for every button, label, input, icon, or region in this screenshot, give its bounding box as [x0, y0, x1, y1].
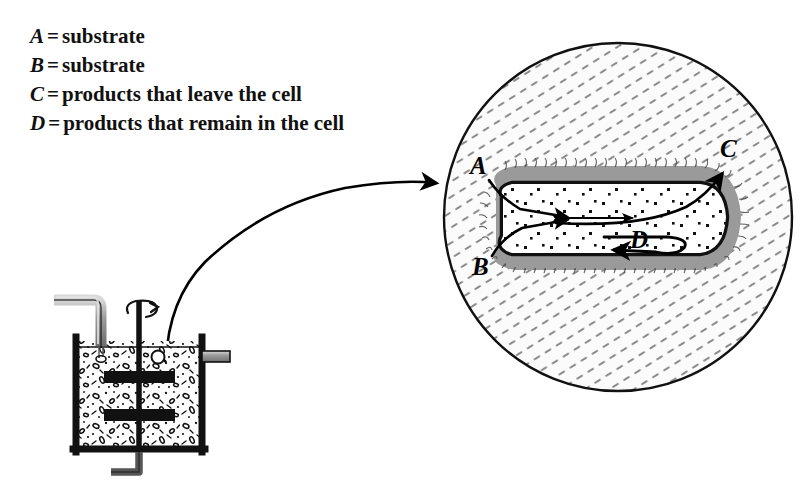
- cell-label-b: B: [471, 253, 489, 280]
- impeller-blade-upper: [104, 371, 175, 383]
- rotation-arrow: [127, 301, 158, 317]
- magnification-pointer-arrow: [166, 182, 436, 362]
- legend-symbol-a: A: [30, 24, 46, 48]
- drain-pipe: [111, 452, 139, 472]
- legend-symbol-d: D: [30, 111, 47, 135]
- legend-equals-c: =: [46, 82, 62, 106]
- stirred-tank-bioreactor: [54, 297, 230, 472]
- probe-line: [152, 351, 167, 364]
- legend-definition-c: products that leave the cell: [62, 82, 302, 106]
- outlet-port: [202, 351, 230, 362]
- legend-symbol-b: B: [30, 53, 46, 77]
- legend-equals-a: =: [46, 24, 62, 48]
- legend-item-b: B=substrate: [30, 51, 430, 80]
- legend-equals-b: =: [46, 53, 62, 77]
- impeller-blade-lower: [104, 409, 175, 421]
- cell-label-c: C: [720, 135, 737, 162]
- legend-definition-a: substrate: [62, 24, 145, 48]
- legend-equals-d: =: [47, 111, 63, 135]
- legend-item-d: D=products that remain in the cell: [30, 109, 430, 138]
- legend-definition-b: substrate: [62, 53, 145, 77]
- legend-item-c: C=products that leave the cell: [30, 80, 430, 109]
- cytoplasm-granules: [495, 180, 735, 260]
- cell-label-a: A: [468, 152, 487, 179]
- legend-item-a: A=substrate: [30, 22, 430, 51]
- figure-canvas: A=substrate B=substrate C=products that …: [0, 0, 806, 495]
- legend-definition-d: products that remain in the cell: [63, 111, 344, 135]
- symbol-key: A=substrate B=substrate C=products that …: [30, 22, 430, 138]
- legend-symbol-c: C: [30, 82, 46, 106]
- cell-label-d: D: [629, 226, 648, 253]
